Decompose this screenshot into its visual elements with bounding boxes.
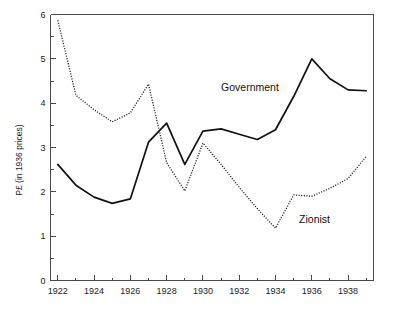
series-line-zionist [58, 20, 366, 228]
y-axis-title-group: P£ (in 1936 prices) [14, 124, 24, 196]
x-tick-label: 1936 [302, 286, 322, 296]
y-tick-label: 3 [40, 143, 45, 153]
y-tick-label: 1 [40, 231, 45, 241]
x-axis-tick-labels: 192219241926192819301932193419361938 [48, 286, 358, 296]
x-tick-label: 1932 [229, 286, 249, 296]
y-tick-label: 4 [40, 98, 45, 108]
axis-frame-lines [51, 15, 374, 281]
x-tick-label: 1924 [84, 286, 104, 296]
y-tick-label: 0 [40, 276, 45, 286]
series-annotations: Government Zionist [221, 81, 330, 225]
y-axis-tick-labels: 0123456 [40, 10, 45, 286]
line-chart-canvas: 0123456 19221924192619281930193219341936… [0, 0, 404, 318]
y-tick-label: 2 [40, 187, 45, 197]
chart-figure: 0123456 19221924192619281930193219341936… [0, 0, 404, 318]
x-tick-label: 1930 [193, 286, 213, 296]
series-line-government [58, 59, 366, 204]
data-series-group [58, 20, 366, 228]
x-tick-label: 1934 [265, 286, 285, 296]
x-tick-label: 1926 [120, 286, 140, 296]
y-axis-title: P£ (in 1936 prices) [14, 124, 24, 196]
x-tick-label: 1928 [157, 286, 177, 296]
x-axis-ticks [58, 275, 366, 281]
plot-frame [51, 15, 374, 281]
series-label-government: Government [221, 81, 279, 93]
y-axis-ticks [51, 15, 57, 281]
x-tick-label: 1938 [338, 286, 358, 296]
y-tick-label: 5 [40, 54, 45, 64]
series-label-zionist: Zionist [299, 213, 330, 225]
y-tick-label: 6 [40, 10, 45, 20]
x-tick-label: 1922 [48, 286, 68, 296]
